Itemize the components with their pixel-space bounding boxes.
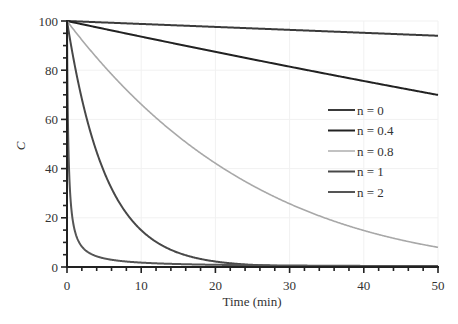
x-tick-label: 50 — [432, 278, 445, 293]
y-tick-label: 40 — [45, 161, 58, 176]
y-tick-label: 20 — [45, 210, 58, 225]
x-tick-label: 40 — [357, 278, 370, 293]
line-chart: 02040608010001020304050 n = 0n = 0.4n = … — [0, 0, 458, 324]
y-tick-label: 80 — [45, 63, 58, 78]
y-tick-label: 100 — [39, 14, 59, 29]
x-tick-label: 0 — [64, 278, 71, 293]
x-tick-label: 30 — [283, 278, 296, 293]
x-axis-label: Time (min) — [222, 294, 281, 309]
x-tick-label: 20 — [209, 278, 222, 293]
y-tick-label: 60 — [45, 112, 58, 127]
y-axis-label: C — [13, 141, 28, 150]
legend-label: n = 1 — [357, 164, 384, 179]
legend-label: n = 0 — [357, 103, 384, 118]
x-tick-label: 10 — [135, 278, 148, 293]
legend-label: n = 0.8 — [357, 144, 394, 159]
legend-label: n = 0.4 — [357, 123, 394, 138]
y-tick-label: 0 — [52, 260, 59, 275]
legend: n = 0n = 0.4n = 0.8n = 1n = 2 — [328, 103, 394, 200]
series-line-n0.4 — [67, 21, 438, 95]
legend-label: n = 2 — [357, 185, 384, 200]
